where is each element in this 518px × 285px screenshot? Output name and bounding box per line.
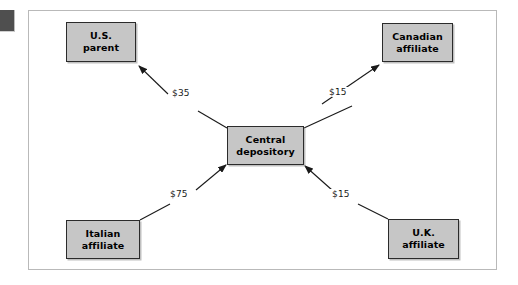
node-central-depository-line2: depository [236, 146, 294, 158]
node-canadian-affiliate-line2: affiliate [396, 43, 439, 55]
node-canadian-affiliate-line1: Canadian [392, 31, 443, 43]
node-uk-affiliate-line2: affiliate [402, 239, 445, 251]
node-italian-affiliate: Italian affiliate [66, 220, 140, 259]
flow-label-from-italian-affiliate: $75 [168, 189, 190, 199]
node-central-depository: Central depository [227, 126, 304, 165]
node-canadian-affiliate: Canadian affiliate [382, 23, 453, 62]
node-italian-affiliate-line1: Italian [86, 228, 121, 240]
node-uk-affiliate: U.K. affiliate [388, 219, 459, 259]
node-italian-affiliate-line2: affiliate [82, 240, 125, 252]
flow-label-from-uk-affiliate: $15 [330, 189, 352, 199]
node-uk-affiliate-line1: U.K. [412, 227, 435, 239]
node-us-parent-line2: parent [83, 42, 119, 54]
node-us-parent: U.S. parent [66, 22, 136, 62]
node-us-parent-line1: U.S. [90, 30, 112, 42]
flow-label-to-us-parent: $35 [170, 88, 192, 98]
node-central-depository-line1: Central [246, 134, 286, 146]
figure-canvas: U.S. parent Canadian affiliate Central d… [0, 0, 518, 285]
flow-label-to-canadian-affiliate: $15 [327, 87, 349, 97]
